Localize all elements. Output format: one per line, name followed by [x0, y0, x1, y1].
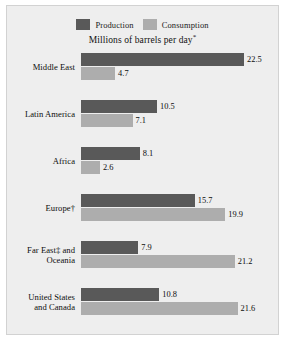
- bar-pair-europe: 15.7 19.9: [81, 193, 278, 223]
- category-label-line1: Latin America: [7, 109, 75, 119]
- category-label-europe: Europe†: [7, 203, 81, 213]
- legend-label-production: Production: [95, 20, 133, 30]
- legend-entry-consumption: Consumption: [143, 19, 209, 30]
- bar-row-consumption-far-east-oceania: 21.2: [81, 255, 252, 268]
- bar-production-middle-east: [81, 53, 244, 66]
- bar-pair-middle-east: 22.5 4.7: [81, 52, 278, 82]
- bar-value-production-middle-east: 22.5: [244, 55, 262, 64]
- category-label-line1: United States: [7, 292, 75, 302]
- legend-entry-production: Production: [76, 19, 133, 30]
- category-label-line1: Europe†: [7, 203, 75, 213]
- bar-value-consumption-far-east-oceania: 21.2: [235, 257, 253, 266]
- chart-group-middle-east: Middle East 22.5 4.7: [7, 52, 278, 82]
- bar-production-far-east-oceania: [81, 241, 138, 254]
- category-label-far-east-oceania: Far East‡ and Oceania: [7, 245, 81, 265]
- bar-consumption-united-states-canada: [81, 302, 238, 315]
- bar-row-production-latin-america: 10.5: [81, 100, 175, 113]
- bar-pair-far-east-oceania: 7.9 21.2: [81, 240, 278, 270]
- bar-row-production-africa: 8.1: [81, 147, 153, 160]
- bar-production-europe: [81, 194, 195, 207]
- bar-value-consumption-europe: 19.9: [225, 210, 243, 219]
- legend-swatch-consumption: [143, 19, 157, 30]
- chart-group-united-states-canada: United States and Canada 10.8 21.6: [7, 287, 278, 317]
- bar-row-production-far-east-oceania: 7.9: [81, 241, 152, 254]
- category-label-line1: Africa: [7, 156, 75, 166]
- bar-row-production-europe: 15.7: [81, 194, 212, 207]
- bar-value-production-latin-america: 10.5: [157, 102, 175, 111]
- bar-value-production-africa: 8.1: [140, 149, 153, 158]
- chart-panel: Production Consumption Millions of barre…: [6, 5, 279, 335]
- bar-row-consumption-united-states-canada: 21.6: [81, 302, 255, 315]
- category-label-africa: Africa: [7, 156, 81, 166]
- category-label-line2: Oceania: [7, 255, 75, 265]
- chart-group-africa: Africa 8.1 2.6: [7, 146, 278, 176]
- chart-group-latin-america: Latin America 10.5 7.1: [7, 99, 278, 129]
- bar-consumption-far-east-oceania: [81, 255, 235, 268]
- bar-value-consumption-united-states-canada: 21.6: [238, 304, 256, 313]
- legend-label-consumption: Consumption: [162, 20, 209, 30]
- category-label-latin-america: Latin America: [7, 109, 81, 119]
- chart-legend: Production Consumption: [7, 19, 278, 30]
- bar-row-production-middle-east: 22.5: [81, 53, 262, 66]
- category-label-line1: Far East‡ and: [7, 245, 75, 255]
- bar-production-africa: [81, 147, 140, 160]
- category-label-line2: and Canada: [7, 302, 75, 312]
- chart-subtitle: Millions of barrels per day*: [7, 35, 278, 45]
- bar-value-production-europe: 15.7: [195, 196, 213, 205]
- bar-row-consumption-europe: 19.9: [81, 208, 243, 221]
- bar-production-united-states-canada: [81, 288, 159, 301]
- bar-consumption-europe: [81, 208, 225, 221]
- bar-consumption-latin-america: [81, 114, 133, 127]
- chart-group-far-east-oceania: Far East‡ and Oceania 7.9 21.2: [7, 240, 278, 270]
- category-label-middle-east: Middle East: [7, 62, 81, 72]
- bar-value-production-united-states-canada: 10.8: [159, 290, 177, 299]
- bar-value-production-far-east-oceania: 7.9: [138, 243, 151, 252]
- chart-subtitle-footnote-marker: *: [193, 33, 197, 41]
- bar-value-consumption-latin-america: 7.1: [133, 116, 146, 125]
- bar-pair-africa: 8.1 2.6: [81, 146, 278, 176]
- chart-group-europe: Europe† 15.7 19.9: [7, 193, 278, 223]
- bar-consumption-africa: [81, 161, 100, 174]
- bar-pair-latin-america: 10.5 7.1: [81, 99, 278, 129]
- bar-value-consumption-middle-east: 4.7: [115, 69, 128, 78]
- bar-row-consumption-africa: 2.6: [81, 161, 113, 174]
- bar-consumption-middle-east: [81, 67, 115, 80]
- bar-value-consumption-africa: 2.6: [100, 163, 113, 172]
- chart-subtitle-text: Millions of barrels per day: [89, 35, 193, 45]
- bar-row-consumption-latin-america: 7.1: [81, 114, 146, 127]
- bar-row-consumption-middle-east: 4.7: [81, 67, 129, 80]
- legend-swatch-production: [76, 19, 90, 30]
- bar-row-production-united-states-canada: 10.8: [81, 288, 177, 301]
- chart-plot-area: Middle East 22.5 4.7 Latin America: [7, 52, 278, 326]
- bar-pair-united-states-canada: 10.8 21.6: [81, 287, 278, 317]
- category-label-united-states-canada: United States and Canada: [7, 292, 81, 312]
- category-label-line1: Middle East: [7, 62, 75, 72]
- bar-production-latin-america: [81, 100, 157, 113]
